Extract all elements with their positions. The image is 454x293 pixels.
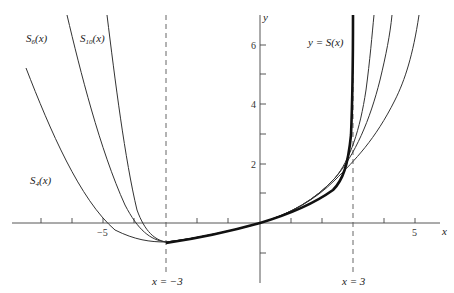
y-axis-label: y xyxy=(262,11,268,23)
s-limit-curve xyxy=(166,15,353,243)
y-tick-label-2: 2 xyxy=(251,159,256,170)
s10-label: S10(x) xyxy=(80,32,105,46)
s4-curve xyxy=(26,15,419,242)
svg-text:S10(x): S10(x) xyxy=(80,32,105,46)
vline-left-label: x = −3 xyxy=(151,275,183,287)
s6-label: S6(x) xyxy=(26,32,48,46)
s-limit-label: y = S(x) xyxy=(307,36,344,49)
svg-text:S6(x): S6(x) xyxy=(26,32,48,46)
x-ticks xyxy=(41,218,415,223)
s10-curve xyxy=(107,15,374,242)
series-plot: −5 5 2 4 6 x y x = −3 x = 3 y = S(x) S6(… xyxy=(0,0,454,293)
s6-curve xyxy=(67,15,392,242)
s4-label: S4(x) xyxy=(30,174,52,188)
y-tick-label-4: 4 xyxy=(251,99,256,110)
x-tick-label-5: 5 xyxy=(412,227,417,238)
y-tick-label-6: 6 xyxy=(251,40,256,51)
x-axis-label: x xyxy=(441,225,447,237)
svg-text:S4(x): S4(x) xyxy=(30,174,52,188)
x-tick-label-neg5: −5 xyxy=(97,227,108,238)
vline-right-label: x = 3 xyxy=(341,275,366,287)
